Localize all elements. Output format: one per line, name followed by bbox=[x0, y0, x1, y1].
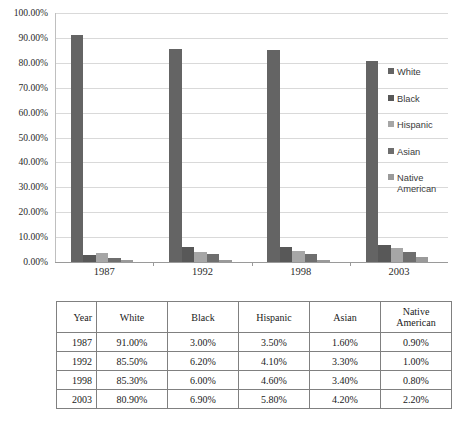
table-cell-hispanic: 4.10% bbox=[239, 352, 310, 371]
table-cell-white: 91.00% bbox=[97, 333, 168, 352]
bar-chart-figure: 100.00%90.00%80.00%70.00%60.00%50.00%40.… bbox=[0, 0, 456, 288]
table-col-header-line: Black bbox=[173, 312, 233, 323]
table-cell-hispanic: 4.60% bbox=[239, 371, 310, 390]
legend-label: Native bbox=[397, 173, 423, 183]
x-axis: 1987199219982003 bbox=[55, 266, 448, 286]
legend-swatch-icon bbox=[388, 95, 394, 101]
table-row: 199885.30%6.00%4.60%3.40%0.80% bbox=[57, 371, 452, 390]
chart-legend: WhiteBlackHispanicAsianNativeAmerican bbox=[388, 64, 456, 208]
y-axis-tick-label: 100.00% bbox=[0, 8, 48, 18]
legend-item-hispanic[interactable]: Hispanic bbox=[388, 117, 456, 131]
legend-label: White bbox=[397, 67, 421, 77]
table-header-row: YearWhiteBlackHispanicAsianNativeAmerica… bbox=[57, 302, 452, 333]
table-col-header-line: Hispanic bbox=[244, 312, 304, 323]
table-cell-black: 6.00% bbox=[168, 371, 239, 390]
table-cell-white: 80.90% bbox=[97, 390, 168, 409]
y-axis-tick-label: 80.00% bbox=[0, 58, 48, 68]
y-axis-tick-label: 30.00% bbox=[0, 182, 48, 192]
table-col-header-line: Year bbox=[62, 312, 92, 323]
bar-black-1987 bbox=[83, 255, 96, 262]
table-cell-white: 85.50% bbox=[97, 352, 168, 371]
legend-item-asian[interactable]: Asian bbox=[388, 144, 456, 158]
legend-item-white[interactable]: White bbox=[388, 64, 456, 78]
bar-group-1992 bbox=[153, 13, 251, 262]
bar-hispanic-1992 bbox=[194, 252, 207, 262]
legend-label: Black bbox=[397, 94, 420, 104]
table-cell-native_american: 0.80% bbox=[381, 371, 452, 390]
table-col-header-native-american: NativeAmerican bbox=[381, 302, 452, 333]
table-col-header-black: Black bbox=[168, 302, 239, 333]
table-col-header-asian: Asian bbox=[310, 302, 381, 333]
legend-label: Asian bbox=[397, 147, 420, 157]
data-table: YearWhiteBlackHispanicAsianNativeAmerica… bbox=[56, 301, 452, 409]
legend-item-black[interactable]: Black bbox=[388, 91, 456, 105]
x-axis-tick-label: 1998 bbox=[252, 266, 350, 277]
bar-white-1998 bbox=[267, 50, 280, 262]
table-col-header-line: American bbox=[386, 317, 446, 328]
table-cell-native_american: 0.90% bbox=[381, 333, 452, 352]
legend-item-native[interactable]: NativeAmerican bbox=[388, 170, 456, 195]
table-cell-asian: 3.40% bbox=[310, 371, 381, 390]
bar-white-1992 bbox=[169, 49, 182, 262]
bar-group-1998 bbox=[252, 13, 350, 262]
table-cell-year: 1987 bbox=[57, 333, 97, 352]
bar-white-2003 bbox=[366, 61, 379, 262]
bar-asian-1992 bbox=[207, 254, 220, 262]
bar-black-1992 bbox=[182, 247, 195, 262]
table-col-header-line: Native bbox=[386, 306, 446, 317]
y-axis-tick-label: 70.00% bbox=[0, 83, 48, 93]
table-cell-hispanic: 3.50% bbox=[239, 333, 310, 352]
table-cell-asian: 1.60% bbox=[310, 333, 381, 352]
bar-black-1998 bbox=[280, 247, 293, 262]
table-cell-native_american: 1.00% bbox=[381, 352, 452, 371]
table-col-header-year: Year bbox=[57, 302, 97, 333]
table-col-header-line: White bbox=[102, 312, 162, 323]
y-axis-tick-label: 60.00% bbox=[0, 108, 48, 118]
y-axis-tick-label: 10.00% bbox=[0, 232, 48, 242]
table-cell-hispanic: 5.80% bbox=[239, 390, 310, 409]
x-axis-tick-label: 1992 bbox=[153, 266, 251, 277]
table-cell-native_american: 2.20% bbox=[381, 390, 452, 409]
bar-hispanic-2003 bbox=[391, 248, 404, 262]
table-cell-asian: 4.20% bbox=[310, 390, 381, 409]
legend-swatch-icon bbox=[388, 68, 394, 74]
table-cell-white: 85.30% bbox=[97, 371, 168, 390]
bar-hispanic-1998 bbox=[292, 251, 305, 262]
y-axis-tick-label: 90.00% bbox=[0, 33, 48, 43]
bar-asian-2003 bbox=[403, 252, 416, 262]
x-axis-tick-label: 2003 bbox=[350, 266, 448, 277]
table-cell-asian: 3.30% bbox=[310, 352, 381, 371]
y-axis: 100.00%90.00%80.00%70.00%60.00%50.00%40.… bbox=[0, 0, 52, 288]
y-axis-tick-label: 0.00% bbox=[0, 257, 48, 267]
legend-swatch-icon bbox=[388, 121, 394, 127]
bar-white-1987 bbox=[71, 35, 84, 262]
table-row: 199285.50%6.20%4.10%3.30%1.00% bbox=[57, 352, 452, 371]
data-table-container: YearWhiteBlackHispanicAsianNativeAmerica… bbox=[56, 301, 452, 409]
table-col-header-white: White bbox=[97, 302, 168, 333]
table-col-header-hispanic: Hispanic bbox=[239, 302, 310, 333]
legend-swatch-icon bbox=[388, 148, 394, 154]
y-axis-tick-label: 50.00% bbox=[0, 133, 48, 143]
bar-black-2003 bbox=[378, 245, 391, 262]
table-row: 200380.90%6.90%5.80%4.20%2.20% bbox=[57, 390, 452, 409]
table-row: 198791.00%3.00%3.50%1.60%0.90% bbox=[57, 333, 452, 352]
table-cell-year: 1998 bbox=[57, 371, 97, 390]
y-axis-tick-label: 20.00% bbox=[0, 207, 48, 217]
table-cell-black: 6.90% bbox=[168, 390, 239, 409]
table-cell-year: 1992 bbox=[57, 352, 97, 371]
table-header: YearWhiteBlackHispanicAsianNativeAmerica… bbox=[57, 302, 452, 333]
table-cell-black: 6.20% bbox=[168, 352, 239, 371]
bar-hispanic-1987 bbox=[96, 253, 109, 262]
y-axis-tick-label: 40.00% bbox=[0, 157, 48, 167]
x-axis-tick-label: 1987 bbox=[55, 266, 153, 277]
bar-group-1987 bbox=[55, 13, 153, 262]
table-body: 198791.00%3.00%3.50%1.60%0.90%199285.50%… bbox=[57, 333, 452, 409]
legend-swatch-icon bbox=[388, 174, 394, 180]
table-cell-year: 2003 bbox=[57, 390, 97, 409]
legend-label: Hispanic bbox=[397, 120, 433, 130]
table-col-header-line: Asian bbox=[315, 312, 375, 323]
legend-label-line2: American bbox=[397, 184, 456, 195]
bar-asian-1998 bbox=[305, 254, 318, 262]
table-cell-black: 3.00% bbox=[168, 333, 239, 352]
